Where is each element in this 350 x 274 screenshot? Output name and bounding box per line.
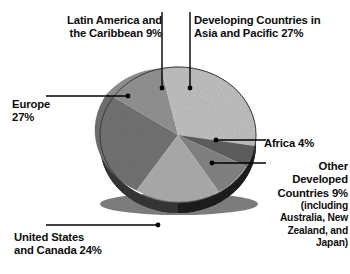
label-latin-america-caribbean: Latin America and the Caribbean 9% [38, 14, 162, 41]
label-united-states-and-canada: United States and Canada 24% [14, 231, 184, 258]
label-developing-countries-asia-pacific: Developing Countries in Asia and Pacific… [194, 14, 344, 41]
label-other-developed-main: Other Developed Countries 9% [278, 160, 348, 199]
label-africa: Africa 4% [264, 137, 348, 150]
leader-dot-latin-america [160, 86, 165, 91]
label-europe: Europe 27% [12, 98, 112, 125]
leader-dot-europe [126, 94, 131, 99]
leader-dot-us-canada [156, 223, 161, 228]
chart-canvas: Latin America and the Caribbean 9% Devel… [0, 0, 350, 274]
leader-dot-other-developed [210, 161, 215, 166]
label-other-developed-note: (including Australia, New Zealand, and J… [228, 200, 348, 249]
leader-dot-asia-pacific [188, 86, 193, 91]
label-other-developed-countries: Other Developed Countries 9%(including A… [228, 160, 348, 249]
leader-dot-africa [214, 138, 219, 143]
